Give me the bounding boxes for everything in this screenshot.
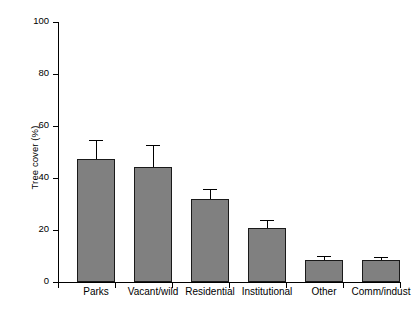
bar-vacant-wild	[134, 167, 172, 282]
y-tick-60: 60	[53, 126, 58, 127]
y-tick-100: 100	[53, 22, 58, 23]
y-tick-label-80: 80	[38, 67, 49, 78]
errorbar-parks-cap	[89, 140, 103, 141]
bar-institutional	[248, 228, 286, 282]
y-tick-label-60: 60	[38, 119, 49, 130]
y-tick-80: 80	[53, 74, 58, 75]
y-axis-title: Tree cover (%)	[29, 88, 40, 228]
y-tick-20: 20	[53, 230, 58, 231]
errorbar-institutional-cap	[260, 220, 274, 221]
plot-area: 0 20 40 60 80 100	[58, 22, 400, 282]
y-axis-line	[58, 22, 59, 283]
errorbar-comm-indust-cap	[374, 257, 388, 258]
x-label-other: Other	[311, 286, 336, 297]
errorbar-institutional-stem	[267, 220, 268, 228]
errorbar-residential-stem	[210, 189, 211, 199]
tree-cover-bar-chart: Tree cover (%) 0 20 40 60 80 100	[0, 0, 416, 309]
x-label-vacant-wild: Vacant/wild	[128, 286, 178, 297]
x-label-comm-indust: Comm/indust	[352, 286, 411, 297]
bar-comm-indust	[362, 260, 400, 282]
bar-other	[305, 260, 343, 282]
bar-residential	[191, 199, 229, 282]
y-tick-label-20: 20	[38, 223, 49, 234]
x-tick-1	[115, 283, 116, 288]
x-tick-5	[343, 283, 344, 288]
y-tick-40: 40	[53, 178, 58, 179]
bar-parks	[77, 159, 115, 282]
x-label-residential: Residential	[185, 286, 234, 297]
y-tick-label-100: 100	[33, 15, 49, 26]
y-tick-label-40: 40	[38, 171, 49, 182]
errorbar-vacant-wild-cap	[146, 145, 160, 146]
errorbar-other-cap	[317, 256, 331, 257]
x-label-parks: Parks	[83, 286, 109, 297]
x-tick-0	[58, 283, 59, 288]
y-tick-label-0: 0	[44, 275, 49, 286]
errorbar-vacant-wild-stem	[153, 145, 154, 167]
errorbar-residential-cap	[203, 189, 217, 190]
errorbar-parks-stem	[96, 140, 97, 159]
x-label-institutional: Institutional	[242, 286, 293, 297]
